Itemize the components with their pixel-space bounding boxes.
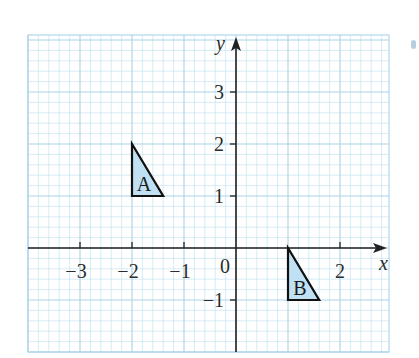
x-tick-label: −3 [65,260,86,282]
x-tick-label: 2 [335,260,345,282]
origin-label: 0 [220,255,230,277]
y-tick-label: 3 [214,81,224,103]
x-axis-label: x [378,252,388,274]
y-tick-label: −1 [203,289,224,311]
coordinate-grid-diagram: AB x y 0 −3−2−12321−1 [0,0,419,358]
triangle-label-b: B [293,277,306,299]
y-axis-label: y [214,32,225,55]
y-tick-label: 2 [214,133,224,155]
y-tick-label: 1 [214,185,224,207]
triangle-label-a: A [137,173,152,195]
x-tick-label: −1 [169,260,190,282]
page-edge-mark [411,40,416,49]
x-tick-label: −2 [117,260,138,282]
